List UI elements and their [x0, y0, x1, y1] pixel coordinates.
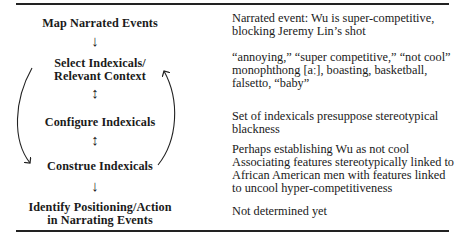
description-narrated-event: Narrated event: Wu is super-competitive,… — [232, 12, 434, 38]
loop-arrows — [0, 0, 200, 241]
description-indexicals: “annoying,” “super competitive,” “not co… — [232, 51, 451, 90]
description-line: to uncool hyper-competitiveness — [232, 182, 454, 195]
description-line: blackness — [232, 123, 438, 136]
right-loop-arrow-icon — [158, 71, 175, 165]
description-configure: Set of indexicals presuppose stereotypic… — [232, 110, 438, 136]
description-line: blocking Jeremy Lin’s shot — [232, 25, 434, 38]
description-line: Not determined yet — [232, 205, 327, 218]
bottom-rule — [16, 230, 449, 232]
description-positioning: Not determined yet — [232, 205, 327, 218]
description-line: falsetto, “baby” — [232, 77, 451, 90]
description-construe: Perhaps establishing Wu as not cool Asso… — [232, 143, 454, 195]
left-loop-arrow-icon — [17, 68, 32, 163]
